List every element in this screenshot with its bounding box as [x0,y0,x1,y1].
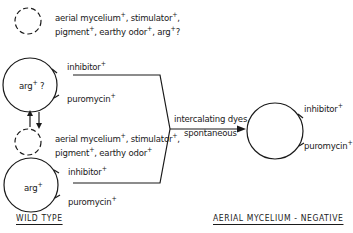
plus-sign: + [338,102,343,110]
gene-puromycin: puromycin [304,140,347,151]
question-mark: ? [176,26,180,37]
gene-pigment: pigment [55,26,89,37]
gene-pigment: pigment [55,147,89,158]
comma: , [177,133,180,144]
aerial-mycelium-negative-caption: AERIAL MYCELIUM - NEGATIVE [213,213,343,223]
up-arrow-head [27,110,33,116]
lower-puromycin-label: puromycin+ [68,196,117,207]
gene-arg: , arg [152,26,170,37]
lower-chromosome-center-label: arg+ [24,182,43,193]
gene-inhibitor: inhibitor [304,103,338,114]
wild-type-caption: WILD TYPE [16,213,63,223]
plus-sign: + [110,92,115,100]
gene-earthy-odor: , earthy odor [94,26,147,37]
upper-puromycin-label: puromycin+ [67,93,116,104]
gene-arg: arg [19,80,32,91]
lower-inhibitor-label: inhibitor+ [68,166,107,177]
comma: , [177,12,180,23]
top-plasmid-circle [15,8,41,34]
upper-chromosome-center-label: arg+ ? [19,80,44,91]
result-inhibitor-label: inhibitor+ [304,103,343,114]
plus-sign: + [347,139,352,147]
gene-earthy-odor: , earthy odor [94,147,147,158]
gene-arg: arg [24,182,37,193]
result-puromycin-label: puromycin+ [304,140,353,151]
lower-plasmid-label-line1: aerial mycelium+, stimulator+, [55,133,180,144]
gene-stimulator: , stimulator [126,133,173,144]
plus-sign: + [147,146,152,154]
gene-aerial-mycelium: aerial mycelium [55,12,121,23]
gene-inhibitor: inhibitor [67,61,101,72]
gene-stimulator: , stimulator [126,12,173,23]
result-chromosome-circle [247,103,303,159]
lower-plasmid-circle [15,129,41,155]
down-arrow-head [36,123,42,129]
conversion-arrow-head [237,126,246,133]
gene-puromycin: puromycin [68,196,111,207]
top-plasmid-label-line2: pigment+, earthy odor+, arg+? [55,26,180,37]
gene-inhibitor: inhibitor [68,166,102,177]
plus-sign: + [101,60,106,68]
transition-label-line1: intercalating dyes, [174,113,250,124]
plus-sign: + [102,165,107,173]
gene-puromycin: puromycin [67,93,110,104]
question-mark: ? [38,80,45,91]
plus-sign: + [111,195,116,203]
top-plasmid-label-line1: aerial mycelium+, stimulator+, [55,12,180,23]
plus-sign: + [37,181,42,189]
upper-inhibitor-label: inhibitor+ [67,61,106,72]
gene-aerial-mycelium: aerial mycelium [55,133,121,144]
lower-plasmid-label-line2: pigment+, earthy odor+ [55,147,152,158]
transition-label-line2: spontaneous [184,127,237,138]
